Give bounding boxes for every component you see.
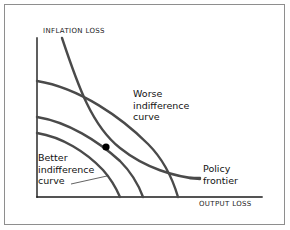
y-axis-label: INFLATION LOSS: [43, 27, 105, 35]
figure-container: INFLATION LOSS OUTPUT LOSS Worse indiffe…: [0, 0, 290, 230]
worse-curve-annotation: Worse indifference curve: [133, 88, 189, 123]
policy-frontier-annotation: Policy frontier: [203, 163, 238, 186]
worse-annotation-line-1: Worse: [133, 88, 189, 100]
policy-annotation-line-1: Policy: [203, 163, 238, 175]
worse-annotation-line-3: curve: [133, 111, 189, 123]
better-annotation-line-3: curve: [38, 175, 94, 187]
worse-annotation-line-2: indifference: [133, 100, 189, 112]
policy-annotation-line-2: frontier: [203, 175, 238, 187]
x-axis-label: OUTPUT LOSS: [199, 200, 252, 208]
better-curve-annotation: Better indifference curve: [38, 152, 94, 187]
better-annotation-line-2: indifference: [38, 164, 94, 176]
tangency-point-marker: [102, 143, 109, 150]
better-annotation-line-1: Better: [38, 152, 94, 164]
